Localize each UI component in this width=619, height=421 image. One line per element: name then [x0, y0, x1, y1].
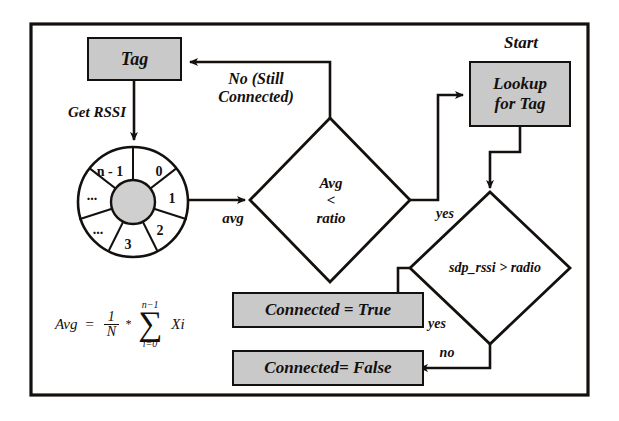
formula-equals: = [85, 316, 95, 333]
annotation-yes-rssi: yes [420, 316, 454, 332]
node-connected-true-shape [233, 293, 423, 327]
node-lookup-shape [470, 62, 570, 126]
flowchart-graphics [0, 0, 619, 421]
annotation-yes-avg: yes [428, 206, 462, 222]
annotation-avg-edge: avg [211, 210, 255, 227]
formula-times: * [125, 317, 131, 332]
buffer-segment-1: 1 [169, 191, 176, 207]
annotation-no-still-connected: No (Still Connected) [196, 70, 316, 106]
node-decision-avg-shape [250, 118, 410, 282]
flowchart-canvas: Tag Lookup for Tag Connected = True Conn… [0, 0, 619, 421]
formula-numerator: 1 [104, 310, 119, 324]
annotation-get-rssi: Get RSSI [47, 104, 147, 121]
node-connected-false-shape [233, 351, 423, 385]
annotation-no-rssi: no [432, 345, 462, 361]
edge-lookup-to-decision-rssi [490, 126, 520, 188]
node-tag-shape [88, 38, 181, 80]
buffer-segment-ellipsis-1: ... [93, 222, 104, 238]
formula-term: Xi [171, 316, 184, 333]
formula-summation: n−1 ∑ i=0 [138, 300, 162, 349]
formula-lhs: Avg [55, 316, 78, 333]
buffer-segment-n-minus-1: n - 1 [97, 164, 123, 180]
buffer-segment-0: 0 [156, 164, 163, 180]
edge-yes-to-lookup [410, 95, 463, 200]
buffer-segment-2: 2 [157, 223, 164, 239]
buffer-segment-3: 3 [125, 237, 132, 253]
buffer-hub [111, 180, 155, 224]
formula-denominator: N [104, 324, 119, 339]
buffer-segment-ellipsis-2: ... [87, 188, 98, 204]
annotation-start: Start [478, 33, 564, 52]
formula-sigma-symbol: ∑ [138, 310, 162, 339]
formula-fraction: 1 N [104, 310, 119, 339]
average-formula: Avg = 1 N * n−1 ∑ i=0 Xi [55, 300, 255, 352]
